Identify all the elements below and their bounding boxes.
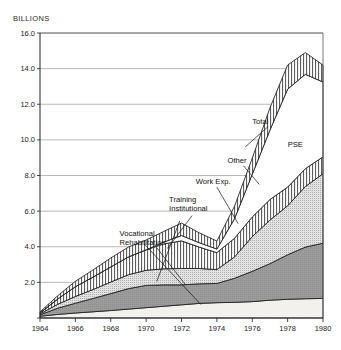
x-tick-label: 1978	[279, 324, 296, 333]
series-annotation-pse: PSE	[288, 140, 303, 149]
y-axis-tick-labels: 2.04.06.08.010.012.014.016.0	[20, 29, 35, 287]
area-chart-plot: 2.04.06.08.010.012.014.016.0 19641966196…	[0, 0, 341, 350]
series-annotation-training: Training	[169, 195, 196, 204]
series-annotation-other: Other	[227, 156, 246, 165]
x-tick-label: 1976	[244, 324, 261, 333]
x-axis-tick-labels: 196419661968197019721974197619781980	[32, 324, 332, 333]
x-tick-label: 1966	[67, 324, 84, 333]
series-annotation-total: Total	[252, 117, 268, 126]
x-tick-label: 1964	[32, 324, 49, 333]
x-tick-label: 1972	[173, 324, 190, 333]
series-annotation-institutional: Institutional	[169, 204, 208, 213]
chart-container: BILLIONS	[0, 0, 341, 350]
y-tick-label: 10.0	[20, 135, 35, 144]
series-annotation-work-exp: Work Exp.	[196, 177, 231, 186]
y-tick-label: 16.0	[20, 29, 35, 38]
x-tick-label: 1980	[315, 324, 332, 333]
y-tick-label: 6.0	[25, 207, 35, 216]
x-tick-label: 1974	[209, 324, 226, 333]
y-tick-label: 12.0	[20, 100, 35, 109]
y-tick-label: 8.0	[25, 171, 35, 180]
series-annotation-vocational: Vocational	[120, 229, 155, 238]
y-tick-label: 4.0	[25, 242, 35, 251]
y-tick-label: 2.0	[25, 278, 35, 287]
x-tick-label: 1970	[138, 324, 155, 333]
x-tick-label: 1968	[102, 324, 119, 333]
y-tick-label: 14.0	[20, 64, 35, 73]
series-annotation-rehabilitation: Rehabilitation	[120, 238, 166, 247]
stacked-area-bands	[40, 53, 323, 318]
